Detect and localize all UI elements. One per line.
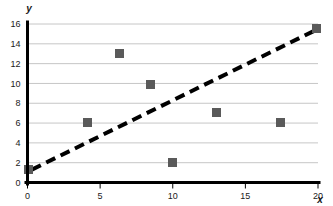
y-tick-label: 4 [15,138,20,148]
data-point-marker [146,80,155,89]
y-axis-title: y [25,3,32,14]
data-point-marker [276,118,285,127]
data-point-marker [83,118,92,127]
y-tick-label: 12 [10,59,20,69]
data-point-marker [212,108,221,117]
y-tick-label: 8 [15,98,20,108]
chart-canvas: 0246810121416 05101520 y x [0,0,333,206]
y-tick-label: 10 [10,79,20,89]
y-tick-label: 14 [10,39,20,49]
data-point-marker [312,24,321,33]
data-point-marker [115,49,124,58]
scatter-chart: 0246810121416 05101520 y x [0,0,333,206]
y-tick-label: 2 [15,158,20,168]
data-point-marker [168,158,177,167]
y-tick-label: 16 [10,19,20,29]
y-tick-label: 0 [15,178,20,188]
x-tick-label: 0 [25,191,30,201]
x-tick-label: 5 [98,191,103,201]
x-axis-title: x [316,194,323,205]
x-tick-label: 10 [168,191,178,201]
y-tick-label: 6 [15,118,20,128]
x-tick-label: 15 [240,191,250,201]
